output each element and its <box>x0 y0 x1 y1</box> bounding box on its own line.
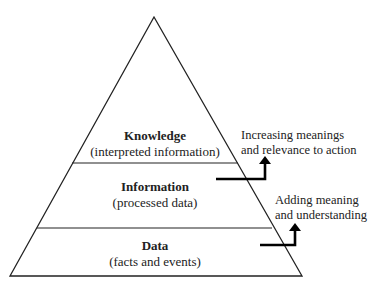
level-knowledge: Knowledge (interpreted information) <box>80 128 230 160</box>
level-subtitle: (processed data) <box>113 195 198 210</box>
level-title: Data <box>80 238 230 254</box>
annotation-1: Increasing meanings and relevance to act… <box>241 128 357 158</box>
annotation-2: Adding meaning and understanding <box>275 193 367 223</box>
level-subtitle: (interpreted information) <box>90 144 220 159</box>
annotation-line: and relevance to action <box>241 143 357 158</box>
level-subtitle: (facts and events) <box>109 254 201 269</box>
level-data: Data (facts and events) <box>80 238 230 270</box>
annotation-line: Adding meaning <box>275 193 367 208</box>
level-title: Information <box>80 179 230 195</box>
annotation-line: and understanding <box>275 208 367 223</box>
level-title: Knowledge <box>80 128 230 144</box>
annotation-line: Increasing meanings <box>241 128 357 143</box>
level-information: Information (processed data) <box>80 179 230 211</box>
arrow-up-icon-2 <box>260 223 301 245</box>
